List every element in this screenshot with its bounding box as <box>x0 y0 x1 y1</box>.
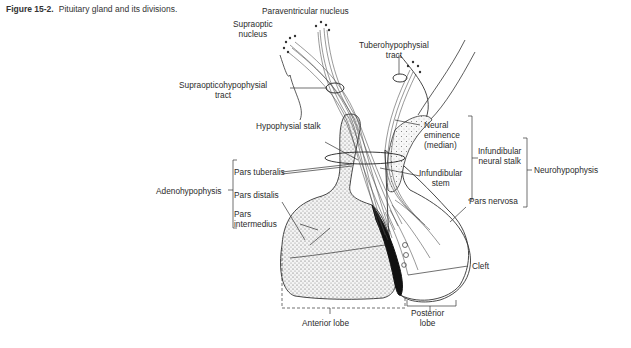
label-pars-distalis: Pars distalis <box>234 190 279 200</box>
label-supraoptic-nucleus: Supraoptic nucleus <box>233 19 273 39</box>
label-infundibular-stem-line2: stem <box>419 178 462 188</box>
label-posterior-lobe: Posterior lobe <box>411 308 444 328</box>
label-hypophysial-stalk: Hypophysial stalk <box>256 121 321 131</box>
label-neural-eminence-line2: eminence <box>424 130 460 140</box>
label-pars-tuberalis: Pars tuberalis <box>234 167 285 177</box>
label-infundibular-neural-stalk: Infundibular neural stalk <box>478 146 521 166</box>
label-paraventricular-nucleus: Paraventricular nucleus <box>262 6 349 16</box>
label-supraoptic-line1: Supraoptic <box>233 19 273 29</box>
label-supraopticohypophysial-line1: Supraopticohypophysial <box>179 80 267 90</box>
label-neural-eminence-line3: (median) <box>424 140 460 150</box>
label-anterior-lobe: Anterior lobe <box>302 318 349 328</box>
label-pars-intermedius: Pars intermedius <box>234 209 277 229</box>
label-posterior-lobe-line2: lobe <box>411 318 444 328</box>
label-cleft: Cleft <box>472 261 489 271</box>
label-supraopticohypophysial-tract: Supraopticohypophysial tract <box>179 80 267 100</box>
label-infundibular-stem: Infundibular stem <box>419 168 462 188</box>
label-neurohypophysis: Neurohypophysis <box>534 165 598 175</box>
label-tuberohypophysial-line2: tract <box>359 50 429 60</box>
label-adenohypophysis: Adenohypophysis <box>156 186 222 196</box>
label-supraoptic-line2: nucleus <box>233 29 273 39</box>
label-pars-intermedius-line1: Pars <box>234 209 277 219</box>
label-neural-eminence: Neural eminence (median) <box>424 120 460 150</box>
label-posterior-lobe-line1: Posterior <box>411 308 444 318</box>
label-pars-intermedius-line2: intermedius <box>234 219 277 229</box>
label-neural-eminence-line1: Neural <box>424 120 460 130</box>
label-infundibular-stem-line1: Infundibular <box>419 168 462 178</box>
label-pars-nervosa: Pars nervosa <box>469 196 518 206</box>
label-infundibular-neural-stalk-line2: neural stalk <box>478 156 521 166</box>
label-infundibular-neural-stalk-line1: Infundibular <box>478 146 521 156</box>
label-tuberohypophysial-line1: Tuberohypophysial <box>359 40 429 50</box>
label-supraopticohypophysial-line2: tract <box>179 90 267 100</box>
label-tuberohypophysial-tract: Tuberohypophysial tract <box>359 40 429 60</box>
